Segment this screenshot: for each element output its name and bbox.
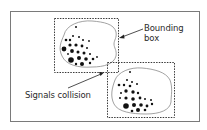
diagram-canvas xyxy=(0,0,207,130)
cell-outline-2 xyxy=(112,68,172,114)
bounding-box-2 xyxy=(108,63,175,118)
signals-collision-arrow xyxy=(68,72,104,88)
cell-dots-1 xyxy=(62,26,98,66)
bounding-box-arrow xyxy=(119,29,143,39)
cell-dots-2 xyxy=(118,71,154,112)
signals-collision-label: Signals collision xyxy=(25,90,91,100)
bounding-box-label: Bounding box xyxy=(144,23,184,43)
bounding-box-label-line2: box xyxy=(144,33,184,43)
bounding-box-label-line1: Bounding xyxy=(144,23,184,33)
